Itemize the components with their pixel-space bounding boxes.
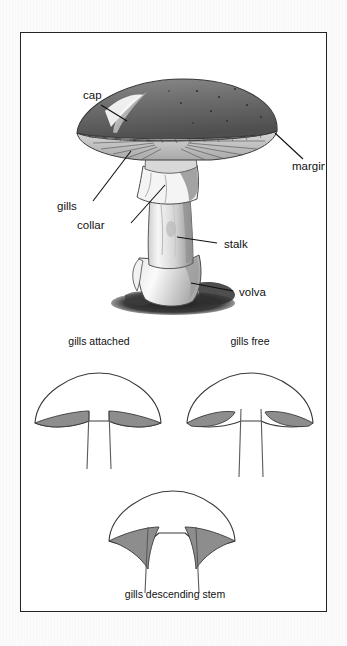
label-gills: gills xyxy=(57,200,77,212)
diagram-gills-descending: gills descending stem xyxy=(109,491,235,600)
caption-gills-attached: gills attached xyxy=(68,335,129,347)
diagram-gills-attached: gills attached xyxy=(35,335,161,469)
diagram-gills-free: gills free xyxy=(187,335,313,477)
label-margin: margin xyxy=(292,160,325,172)
label-stalk: stalk xyxy=(224,238,248,250)
caption-gills-free: gills free xyxy=(230,335,269,347)
label-collar: collar xyxy=(77,219,105,231)
leader-gills xyxy=(93,151,131,201)
figure-frame: cap margin gills collar stalk volva gill… xyxy=(20,32,327,612)
label-cap: cap xyxy=(83,89,102,101)
gill-attachment-diagrams: gills attached gills free xyxy=(35,335,313,600)
leader-margin xyxy=(275,133,303,159)
mushroom-figure-svg: cap margin gills collar stalk volva gill… xyxy=(21,33,325,610)
label-volva: volva xyxy=(239,286,266,298)
figure-page: cap margin gills collar stalk volva gill… xyxy=(0,0,347,646)
caption-gills-descending: gills descending stem xyxy=(125,588,226,600)
mushroom-illustration: cap margin gills collar stalk volva xyxy=(57,79,325,315)
stalk-blemish xyxy=(166,221,176,237)
